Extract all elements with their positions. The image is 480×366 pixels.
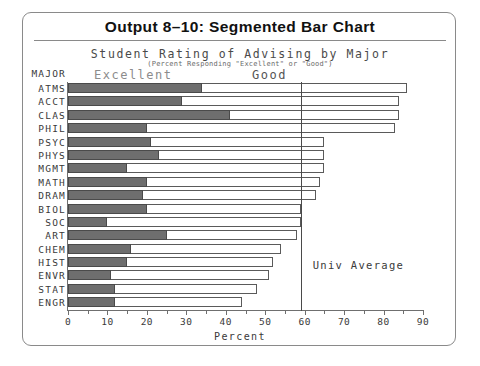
- bar-segment-excellent[interactable]: [68, 163, 127, 173]
- stacked-bar[interactable]: [68, 284, 257, 294]
- bar-segment-good[interactable]: [159, 150, 325, 160]
- bar-segment-good[interactable]: [167, 230, 297, 240]
- x-axis-tick-major: [423, 311, 424, 315]
- reference-line: [301, 82, 302, 311]
- x-axis-tick-minor: [285, 311, 286, 314]
- y-axis-tick-label: MGMT: [22, 162, 66, 175]
- x-axis-tick-major: [384, 311, 385, 315]
- chart-subtitle: Student Rating of Advising by Major: [0, 47, 480, 61]
- stacked-bar[interactable]: [68, 177, 320, 187]
- x-axis-tick-major: [344, 311, 345, 315]
- x-axis-tick-major: [186, 311, 187, 315]
- y-axis-tick-label: STAT: [22, 283, 66, 296]
- stacked-bar[interactable]: [68, 150, 324, 160]
- y-axis-tick-label: ACCT: [22, 95, 66, 108]
- y-axis-tick-label: PHYS: [22, 149, 66, 162]
- stacked-bar[interactable]: [68, 204, 301, 214]
- bar-segment-excellent[interactable]: [68, 177, 147, 187]
- title-divider: [34, 40, 446, 41]
- bar-segment-excellent[interactable]: [68, 83, 202, 93]
- x-axis-tick-label: 30: [180, 316, 192, 327]
- bar-segment-excellent[interactable]: [68, 284, 115, 294]
- bar-row: [68, 122, 423, 135]
- stacked-bar[interactable]: [68, 190, 317, 200]
- bar-segment-good[interactable]: [202, 83, 407, 93]
- stacked-bar[interactable]: [68, 230, 297, 240]
- stacked-bar[interactable]: [68, 217, 301, 227]
- bar-segment-good[interactable]: [107, 217, 300, 227]
- bar-segment-excellent[interactable]: [68, 110, 230, 120]
- y-axis-tick-label: BIOL: [22, 203, 66, 216]
- x-axis-tick-label: 50: [259, 316, 271, 327]
- stacked-bar[interactable]: [68, 96, 399, 106]
- bar-segment-excellent[interactable]: [68, 257, 127, 267]
- y-axis-header: MAJOR: [22, 66, 66, 82]
- bar-segment-excellent[interactable]: [68, 96, 182, 106]
- x-axis-tick-label: 60: [298, 316, 310, 327]
- bar-row: [68, 95, 423, 108]
- y-axis-tick-label: DRAM: [22, 189, 66, 202]
- bar-segment-excellent[interactable]: [68, 297, 115, 307]
- bar-segment-good[interactable]: [182, 96, 399, 106]
- bar-segment-good[interactable]: [230, 110, 400, 120]
- x-axis-tick-minor: [206, 311, 207, 314]
- stacked-bar[interactable]: [68, 110, 399, 120]
- y-axis-labels: MAJORATMSACCTCLASPHILPSYCPHYSMGMTMATHDRA…: [22, 66, 66, 310]
- stacked-bar[interactable]: [68, 270, 269, 280]
- y-axis-tick-label: ENGR: [22, 296, 66, 309]
- x-axis-tick-label: 70: [338, 316, 350, 327]
- stacked-bar[interactable]: [68, 123, 395, 133]
- bar-segment-good[interactable]: [111, 270, 269, 280]
- chart-page: Output 8–10: Segmented Bar Chart Student…: [0, 0, 480, 366]
- bar-segment-good[interactable]: [127, 163, 324, 173]
- bar-segment-excellent[interactable]: [68, 204, 147, 214]
- stacked-bar[interactable]: [68, 137, 324, 147]
- y-axis-tick-label: CLAS: [22, 109, 66, 122]
- bar-segment-excellent[interactable]: [68, 230, 167, 240]
- y-axis-tick-label: ENVR: [22, 269, 66, 282]
- bar-segment-excellent[interactable]: [68, 190, 143, 200]
- reference-line-label: Univ Average: [313, 259, 404, 271]
- bar-segment-good[interactable]: [147, 177, 321, 187]
- x-axis-tick-label: 90: [417, 316, 429, 327]
- bar-segment-excellent[interactable]: [68, 244, 131, 254]
- bar-segment-excellent[interactable]: [68, 137, 151, 147]
- bar-row: [68, 176, 423, 189]
- bar-segment-good[interactable]: [131, 244, 281, 254]
- stacked-bar[interactable]: [68, 244, 281, 254]
- y-axis-tick-label: CHEM: [22, 243, 66, 256]
- bar-row: [68, 216, 423, 229]
- bar-segment-good[interactable]: [151, 137, 325, 147]
- plot-area: [68, 82, 423, 310]
- y-axis-tick-label: PHIL: [22, 122, 66, 135]
- y-axis-tick-label: SOC: [22, 216, 66, 229]
- bar-segment-excellent[interactable]: [68, 217, 107, 227]
- bar-segment-excellent[interactable]: [68, 123, 147, 133]
- bar-segment-good[interactable]: [143, 190, 317, 200]
- stacked-bar[interactable]: [68, 257, 273, 267]
- x-axis-title: Percent: [0, 331, 480, 342]
- bar-row: [68, 283, 423, 296]
- x-axis-tick-minor: [364, 311, 365, 314]
- stacked-bar[interactable]: [68, 83, 407, 93]
- stacked-bar[interactable]: [68, 297, 242, 307]
- bar-segment-good[interactable]: [115, 284, 257, 294]
- stacked-bar[interactable]: [68, 163, 324, 173]
- bar-row: [68, 136, 423, 149]
- bar-row: [68, 189, 423, 202]
- x-axis-tick-minor: [127, 311, 128, 314]
- bar-segment-excellent[interactable]: [68, 150, 159, 160]
- bar-segment-good[interactable]: [127, 257, 273, 267]
- bar-row: [68, 296, 423, 309]
- y-axis-tick-label: ATMS: [22, 82, 66, 95]
- x-axis-tick-label: 0: [65, 316, 71, 327]
- bar-segment-good[interactable]: [115, 297, 241, 307]
- x-axis-tick-minor: [167, 311, 168, 314]
- legend-item-excellent: Excellent: [94, 68, 173, 82]
- bar-segment-good[interactable]: [147, 123, 396, 133]
- bar-segment-good[interactable]: [147, 204, 301, 214]
- x-axis-tick-minor: [246, 311, 247, 314]
- x-axis-tick-minor: [324, 311, 325, 314]
- bar-segment-excellent[interactable]: [68, 270, 111, 280]
- y-axis-tick-label: PSYC: [22, 136, 66, 149]
